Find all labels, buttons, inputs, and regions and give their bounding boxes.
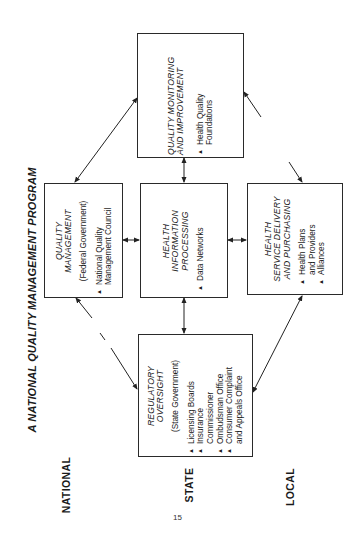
list-item: ▲and Appeals Office xyxy=(235,338,245,454)
box-subtitle: (State Government) xyxy=(171,338,181,454)
triangle-bullet-icon: ▲ xyxy=(215,444,225,454)
list-item: ▲Insurance xyxy=(196,338,206,454)
box-regulatory-oversight: REGULATORY OVERSIGHT (State Government) … xyxy=(138,334,253,457)
list-item: ▲Alliances xyxy=(317,187,327,285)
list-item: ▲Consumer Complaint xyxy=(225,338,235,454)
box-title: QUALITY MONITORING AND IMPROVEMENT xyxy=(167,37,186,155)
level-label-local: LOCAL xyxy=(284,468,296,506)
triangle-bullet-icon: ▲ xyxy=(225,444,235,454)
connector-qm-ro-c xyxy=(111,348,137,389)
box-title: QUALITY MANAGEMENT xyxy=(54,187,73,295)
connector-qm-ro-b xyxy=(100,333,105,340)
connector-qm-ro-a xyxy=(76,298,92,318)
list-item: ▲Management Council xyxy=(103,187,113,295)
list-item: ▲and Providers xyxy=(307,187,317,285)
list-item: ▲Health Quality xyxy=(195,37,205,155)
triangle-bullet-icon: ▲ xyxy=(94,285,104,295)
box-health-information: HEALTH INFORMATION PROCESSING ▲Data Netw… xyxy=(140,183,228,298)
level-label-state: STATE xyxy=(183,468,195,503)
list-item: ▲Commissioner xyxy=(206,338,216,454)
box-title: HEALTH INFORMATION PROCESSING xyxy=(162,187,190,295)
box-title: REGULATORY OVERSIGHT xyxy=(147,338,166,454)
box-quality-management: QUALITY MANAGEMENT (Federal Government) … xyxy=(44,183,123,298)
triangle-bullet-icon: ▲ xyxy=(196,281,206,291)
connector-qm-qmi xyxy=(75,98,137,182)
box-items: ▲Licensing Boards ▲Insurance ▲Commission… xyxy=(187,338,245,454)
triangle-bullet-icon: ▲ xyxy=(298,275,308,285)
diagram-title: A NATIONAL QUALITY MANAGEMENT PROGRAM xyxy=(26,168,38,433)
box-items: ▲Data Networks xyxy=(196,187,206,291)
box-items: ▲National Quality ▲Management Council xyxy=(94,187,113,295)
list-item: ▲Health Plans xyxy=(298,187,308,285)
box-health-service: HEALTH SERVICE DELIVERY AND PURCHASING ▲… xyxy=(247,183,343,295)
list-item: ▲Data Networks xyxy=(196,187,206,291)
page-number: 15 xyxy=(173,513,182,522)
connector-hsd-ro xyxy=(253,296,302,392)
triangle-bullet-icon: ▲ xyxy=(196,444,206,454)
triangle-bullet-icon: ▲ xyxy=(187,444,197,454)
box-quality-monitoring: QUALITY MONITORING AND IMPROVEMENT ▲Heal… xyxy=(137,33,244,158)
level-label-national: NATIONAL xyxy=(60,457,72,514)
list-item: ▲National Quality xyxy=(94,187,104,295)
list-item: ▲Foundations xyxy=(205,37,215,155)
list-item: ▲Licensing Boards xyxy=(187,338,197,454)
box-title: HEALTH SERVICE DELIVERY AND PURCHASING xyxy=(264,187,292,291)
triangle-bullet-icon: ▲ xyxy=(317,275,327,285)
box-items: ▲Health Plans ▲and Providers ▲Alliances xyxy=(298,187,327,285)
box-items: ▲Health Quality ▲Foundations xyxy=(195,37,214,155)
connector-hsd-qmi-b xyxy=(289,162,302,182)
connector-hsd-qmi-a xyxy=(244,92,261,117)
list-item: ▲Ombudsman Office xyxy=(215,338,225,454)
triangle-bullet-icon: ▲ xyxy=(195,145,205,155)
box-subtitle: (Federal Government) xyxy=(78,187,88,295)
